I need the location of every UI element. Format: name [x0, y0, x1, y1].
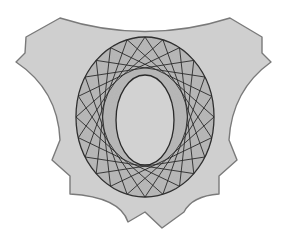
shield-diagram	[0, 0, 291, 247]
diagram-canvas	[0, 0, 291, 247]
inner-ellipse	[116, 75, 174, 165]
